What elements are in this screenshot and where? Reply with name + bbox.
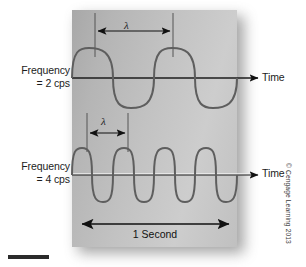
- wave-frequency-figure: Frequency = 2 cps Frequency = 4 cps Time…: [0, 0, 306, 267]
- time-label-top: Time: [262, 71, 285, 84]
- duration-label: 1 Second: [100, 228, 210, 240]
- frequency-label-top-line2: = 2 cps: [8, 77, 70, 90]
- caption-rule: [8, 255, 49, 259]
- frequency-label-top: Frequency = 2 cps: [8, 64, 70, 89]
- frequency-label-top-line1: Frequency: [8, 64, 70, 77]
- copyright-credit: © Cengage Learning 2013: [285, 163, 292, 255]
- frequency-label-bottom: Frequency = 4 cps: [8, 160, 70, 185]
- wavelength-symbol-bottom: λ: [101, 115, 106, 127]
- frequency-label-bottom-line1: Frequency: [8, 160, 70, 173]
- line-art-layer: [0, 0, 306, 267]
- time-label-bottom: Time: [262, 167, 285, 180]
- wavelength-symbol-top: λ: [124, 19, 129, 31]
- frequency-label-bottom-line2: = 4 cps: [8, 173, 70, 186]
